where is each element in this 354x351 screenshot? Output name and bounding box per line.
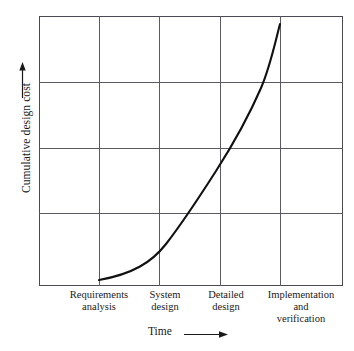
x-tick-line: Detailed — [196, 289, 256, 301]
y-axis-group: Cumulative design cost — [0, 0, 38, 290]
x-tick-label-system-design: System design — [133, 289, 197, 313]
x-axis-group: Time — [148, 325, 252, 343]
x-tick-line: design — [196, 301, 256, 313]
right-arrow-icon — [184, 330, 228, 339]
cumulative-design-cost-chart: Cumulative design cost Requirements anal… — [0, 0, 354, 351]
x-tick-line: and — [249, 301, 353, 313]
x-tick-line: Implementation — [249, 289, 353, 301]
x-tick-line: verification — [249, 313, 353, 325]
x-axis-title: Time — [148, 325, 172, 337]
x-tick-line: design — [133, 301, 197, 313]
up-arrow-icon — [18, 62, 27, 98]
x-tick-line: System — [133, 289, 197, 301]
plot-area — [39, 16, 343, 286]
x-tick-label-detailed-design: Detailed design — [196, 289, 256, 313]
y-axis-title: Cumulative design cost — [20, 28, 32, 248]
x-tick-label-implementation-and-verification: Implementation and verification — [249, 289, 353, 324]
